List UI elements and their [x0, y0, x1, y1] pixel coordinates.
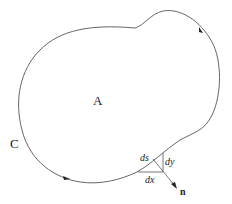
dx-label: dx [145, 174, 155, 185]
boundary-curve [19, 11, 220, 183]
curve-label: C [10, 136, 19, 151]
diagram-canvas: A C ds dy dx n [0, 0, 232, 204]
dy-label: dy [165, 156, 175, 167]
ds-label: ds [140, 152, 149, 163]
region-label: A [93, 93, 103, 108]
normal-arrowhead-icon [171, 182, 177, 189]
normal-label: n [180, 186, 186, 197]
